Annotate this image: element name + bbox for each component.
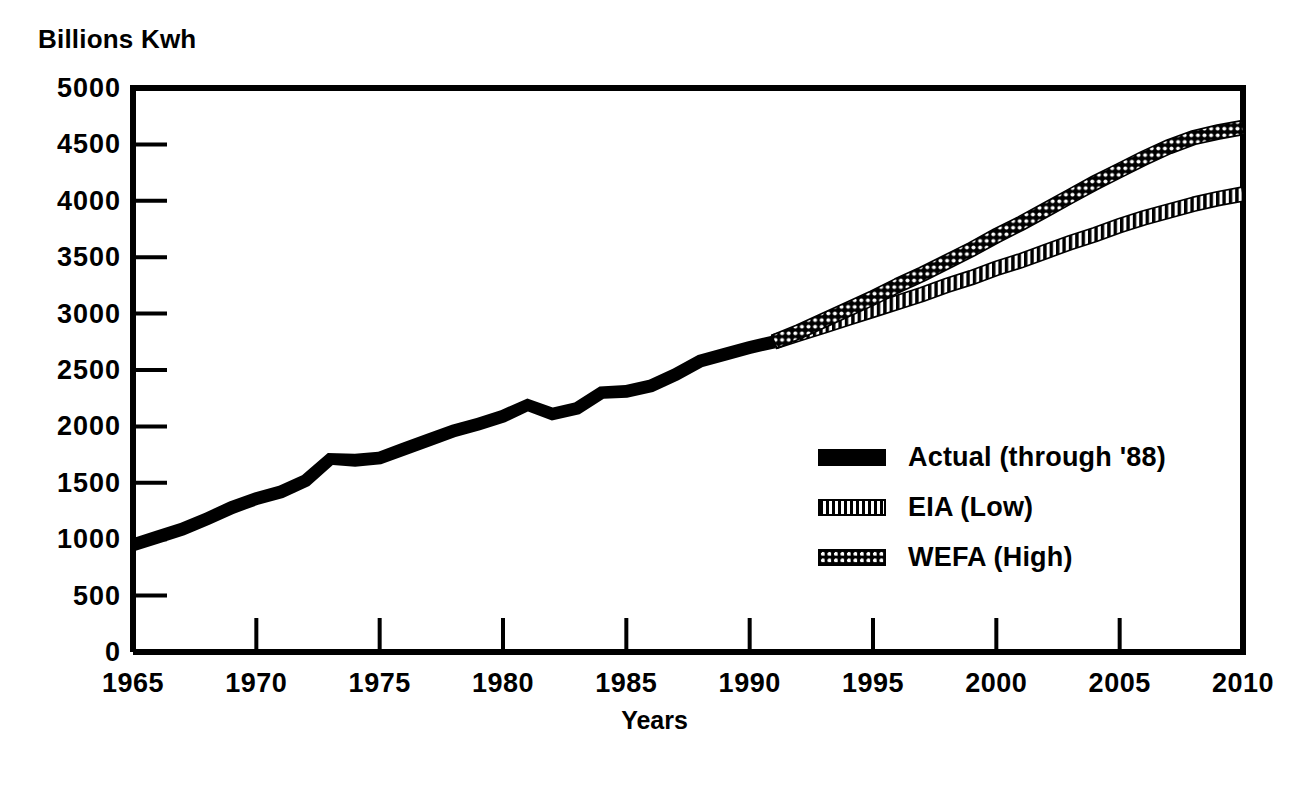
y-tick-label: 4500 — [11, 129, 121, 160]
x-tick-label: 2010 — [1183, 668, 1303, 699]
x-tick-label: 1980 — [443, 668, 563, 699]
y-tick-label: 500 — [11, 580, 121, 611]
y-tick-label: 3500 — [11, 242, 121, 273]
x-tick-label: 2005 — [1060, 668, 1180, 699]
chart-figure: Billions Kwh 500045004000350030002500200… — [0, 0, 1309, 786]
legend-item: Actual (through '88) — [818, 438, 1248, 476]
y-tick-label: 2500 — [11, 355, 121, 386]
x-tick-label: 1985 — [566, 668, 686, 699]
x-axis-title: Years — [0, 706, 1309, 735]
x-tick-label: 1990 — [690, 668, 810, 699]
x-tick-label: 1995 — [813, 668, 933, 699]
y-tick-label: 5000 — [11, 73, 121, 104]
legend-swatch-eia-icon — [818, 499, 886, 516]
y-tick-label: 0 — [11, 637, 121, 668]
chart-legend: Actual (through '88) EIA (Low) WEFA (Hig… — [818, 438, 1248, 588]
x-tick-label: 2000 — [936, 668, 1056, 699]
x-tick-label: 1970 — [196, 668, 316, 699]
legend-label-wefa: WEFA (High) — [908, 542, 1073, 573]
legend-label-eia: EIA (Low) — [908, 492, 1033, 523]
y-tick-label: 1000 — [11, 524, 121, 555]
series-eia-low — [772, 187, 1244, 348]
y-tick-label: 3000 — [11, 298, 121, 329]
legend-item: WEFA (High) — [818, 538, 1248, 576]
y-tick-label: 1500 — [11, 467, 121, 498]
y-tick-label: 2000 — [11, 411, 121, 442]
series-wefa-high — [772, 121, 1245, 349]
y-tick-label: 4000 — [11, 185, 121, 216]
legend-swatch-actual-icon — [818, 449, 886, 466]
series-actual-through-88 — [131, 335, 776, 551]
x-tick-label: 1965 — [73, 668, 193, 699]
x-tick-label: 1975 — [320, 668, 440, 699]
legend-swatch-wefa-icon — [818, 549, 886, 566]
legend-item: EIA (Low) — [818, 488, 1248, 526]
legend-label-actual: Actual (through '88) — [908, 442, 1166, 473]
